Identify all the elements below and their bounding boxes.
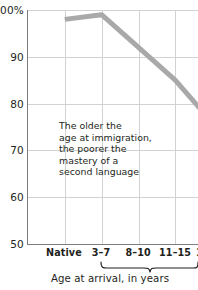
ytick-label-100: 100% [0,4,28,16]
x-axis-brace [27,261,198,273]
annotation-line-3: the poorer the [59,143,152,155]
x-axis-title-text: Age at arrival, in years [29,273,169,284]
chart-figure: 100% 90 80 70 60 50 Native 3–7 8–10 11–1… [0,0,198,290]
xtick-label-native: Native [46,247,82,258]
annotation-line-1: The older the [59,120,152,132]
ytick-label-50: 50 [10,238,28,250]
xtick-label-3-7: 3–7 [92,247,110,258]
xtick-label-8-10: 8–10 [126,247,151,258]
ytick-label-90: 90 [10,51,28,63]
x-axis-title: Age at arrival, in years [0,273,198,284]
ytick-label-60: 60 [10,191,28,203]
annotation-line-5: second language [59,166,152,178]
xtick-label-17-39: 17–39 [196,247,198,258]
annotation-line-2: age at immigration, [59,132,152,144]
annotation-trend-note: The older the age at immigration, the po… [59,120,152,178]
ytick-label-80: 80 [10,98,28,110]
ytick-label-70: 70 [10,144,28,156]
xtick-label-11-15: 11–15 [159,247,191,258]
annotation-line-4: mastery of a [59,155,152,167]
